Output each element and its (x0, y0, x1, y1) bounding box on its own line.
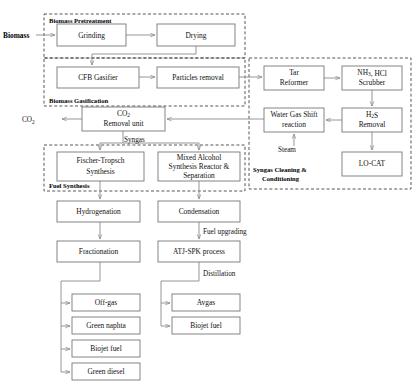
box-label-grinding: Grinding (78, 31, 105, 40)
group-label-syngas-cleaning-line2: Conditioning (262, 175, 300, 182)
box-label-h2s-removal-line2: Removal (359, 120, 386, 129)
stream-label-distillation: Distillation (203, 270, 236, 278)
box-label-water-gas-shift-line2: reaction (282, 120, 306, 129)
box-label-mixed-alcohol-line2: Synthesis Reactor & (169, 162, 230, 171)
stream-label-steam: Steam (278, 146, 296, 154)
box-off-gas[interactable]: Off-gas (72, 294, 140, 311)
box-label-condensation: Condensation (179, 207, 220, 216)
box-label-particles-removal: Particles removal (172, 73, 224, 82)
box-drying[interactable]: Drying (157, 24, 235, 46)
box-label-fractionation: Fractionation (79, 247, 119, 256)
box-biojet-fuel-right[interactable]: Biojet fuel (172, 317, 240, 334)
box-lo-cat[interactable]: LO-CAT (342, 152, 402, 176)
box-particles-removal[interactable]: Particles removal (157, 67, 239, 88)
group-label-fuel-synthesis: Fuel Synthesis (49, 182, 90, 189)
stream-label-biomass: Biomass (3, 31, 29, 40)
box-green-diesel[interactable]: Green diesel (72, 363, 140, 380)
box-cfb-gasifier[interactable]: CFB Gasifier (57, 67, 139, 88)
box-tar-reformer[interactable]: Tar Reformer (264, 66, 324, 90)
box-label-water-gas-shift: Water Gas Shift (270, 110, 318, 119)
box-label-avgas: Avgas (197, 298, 215, 307)
box-label-green-naphta: Green naphta (86, 321, 126, 330)
box-label-mixed-alcohol: Mixed Alcohol (177, 153, 222, 162)
box-label-hydrogenation: Hydrogenation (76, 207, 121, 216)
box-nh3-hcl-scrubber[interactable]: NH3, HCl Scrubber (342, 66, 402, 90)
box-label-atj-spk: ATJ-SPK process (173, 247, 225, 256)
box-label-mixed-alcohol-line3: Separation (183, 171, 215, 180)
box-atj-spk-process[interactable]: ATJ-SPK process (158, 241, 240, 262)
box-hydrogenation[interactable]: Hydrogenation (57, 201, 140, 222)
box-label-removal-unit: Removal unit (103, 119, 144, 128)
box-h2s-removal[interactable]: H2S Removal (342, 108, 402, 132)
box-mixed-alcohol[interactable]: Mixed Alcohol Synthesis Reactor & Separa… (158, 152, 240, 181)
box-condensation[interactable]: Condensation (158, 201, 240, 222)
stream-label-fuel-upgrading: Fuel upgrading (203, 228, 247, 236)
box-avgas[interactable]: Avgas (172, 294, 240, 311)
box-label-nh3-hcl: NH3, HCl (357, 68, 386, 77)
group-label-syngas-cleaning: Syngas Cleaning & (253, 166, 307, 173)
box-water-gas-shift[interactable]: Water Gas Shift reaction (264, 108, 324, 132)
box-green-naphta[interactable]: Green naphta (72, 317, 140, 334)
box-label-tar-reformer-line2: Reformer (280, 78, 309, 87)
box-co2-removal-unit[interactable]: CO2 Removal unit (82, 107, 165, 131)
box-fractionation[interactable]: Fractionation (57, 241, 140, 262)
box-fischer-tropsch[interactable]: Fischer-Tropsch Synthesis (57, 152, 144, 181)
box-biojet-fuel-left[interactable]: Biojet fuel (72, 340, 140, 357)
box-label-scrubber: Scrubber (359, 78, 386, 87)
box-grinding[interactable]: Grinding (57, 24, 126, 46)
box-label-biojet-fuel-left: Biojet fuel (90, 344, 121, 353)
box-label-cfb-gasifier: CFB Gasifier (78, 73, 118, 82)
stream-label-co2: CO2 (22, 116, 35, 125)
stream-labels: Biomass CO2 Syngas Steam Fuel upgrading … (3, 31, 296, 278)
group-label-pretreatment: Biomass Pretreatment (49, 17, 112, 24)
box-label-drying: Drying (186, 31, 207, 40)
stream-label-syngas: Syngas (124, 136, 145, 144)
box-label-tar-reformer: Tar (289, 68, 299, 77)
box-label-fischer-tropsch-line2: Synthesis (86, 167, 114, 176)
box-label-off-gas: Off-gas (95, 298, 118, 307)
group-label-gasification: Biomass Gasification (49, 97, 108, 104)
box-label-green-diesel: Green diesel (87, 367, 124, 376)
box-label-fischer-tropsch: Fischer-Tropsch (76, 156, 124, 165)
process-flow-diagram: Biomass Pretreatment Biomass Gasificatio… (0, 0, 417, 392)
box-label-biojet-fuel-right: Biojet fuel (190, 321, 221, 330)
process-boxes: Grinding Drying CFB Gasifier Particles r… (57, 24, 402, 380)
diagram-canvas: Biomass Pretreatment Biomass Gasificatio… (0, 0, 417, 392)
connector-drying-cfb (92, 46, 196, 65)
box-label-lo-cat: LO-CAT (359, 159, 386, 168)
